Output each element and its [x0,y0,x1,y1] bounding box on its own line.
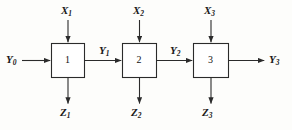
label-y1: Y1 [99,45,109,56]
block-2-number: 2 [122,55,156,65]
label-x3: X3 [204,5,215,16]
block-3-number: 3 [193,55,228,65]
label-z3: Z3 [202,107,212,118]
block-1-number: 1 [51,55,84,65]
label-y2: Y2 [170,45,180,56]
label-z2: Z2 [131,107,141,118]
label-y0: Y0 [6,54,16,65]
block-diagram-canvas: 1 2 3 X1 X2 X3 Y0 Y1 Y2 Y3 Z1 Z2 Z3 [0,0,292,130]
label-x1: X1 [61,5,72,16]
label-x2: X2 [133,5,144,16]
label-z1: Z1 [60,107,70,118]
diagram-vector-layer [0,0,292,130]
label-y3: Y3 [269,54,279,65]
